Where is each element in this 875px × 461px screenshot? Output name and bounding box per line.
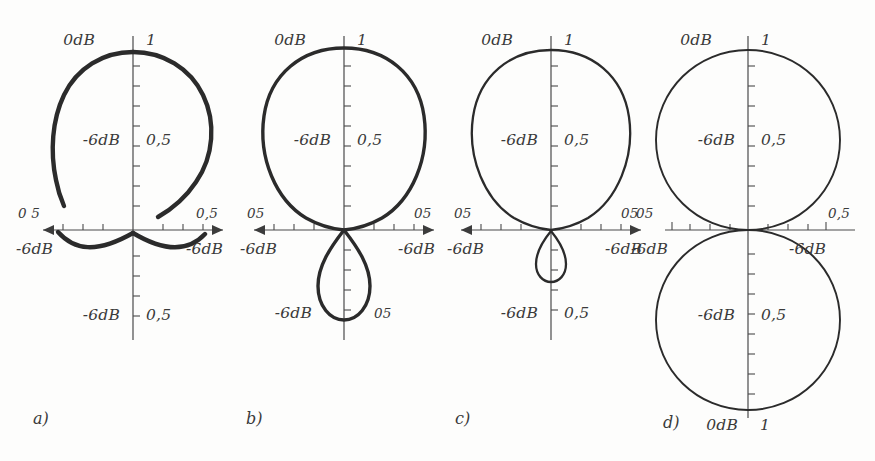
panel-d-label-axis-left-lower: -6dB [631,240,668,258]
panel-c-left-arrow-icon [461,225,472,235]
panel-c-label-axis-left-upper: 05 [454,205,472,221]
panel-b-label-top-right: 1 [357,31,367,49]
panel-a-label-top-right: 1 [146,31,156,49]
panel-d-label-bottom-axis-left: 0dB [706,416,738,434]
panel-c-caption: c) [455,409,470,428]
panel-a: 0dB 1 -6dB 0,5 0 5 0,5 -6dB -6dB -6dB 0,… [16,31,223,428]
panel-c-label-mid-right: 0,5 [564,131,589,149]
panel-d-label-axis-right-upper: 0,5 [828,205,850,221]
panel-a-caption: a) [33,409,49,428]
panel-b-label-top-left: 0dB [274,31,306,49]
panel-a-left-arrow-icon [43,225,54,235]
panel-d-label-bottom-left: -6dB [698,306,735,324]
panel-a-label-axis-left-upper: 0 5 [18,205,40,221]
panel-d-label-bottom-right: 0,5 [761,306,786,324]
panel-a-label-top-left: 0dB [63,31,95,49]
panel-b-label-mid-left: -6dB [294,131,331,149]
panel-c-label-bottom-left: -6dB [501,304,538,322]
panel-d-label-mid-right: 0,5 [761,131,786,149]
panel-a-vertical-ticks [133,66,140,316]
panel-a-front-lobe-left [53,52,133,206]
panel-c-label-mid-left: -6dB [501,131,538,149]
panel-a-label-axis-right-upper: 0,5 [196,205,218,221]
panel-c-label-top-left: 0dB [481,31,513,49]
panel-d: 0dB 1 -6dB 0,5 05 0,5 -6dB -6dB -6dB 0,5… [631,31,855,434]
panel-b-label-mid-right: 0,5 [357,131,382,149]
panel-a-label-mid-right: 0,5 [146,131,171,149]
panel-d-label-top-right: 1 [761,31,771,49]
panel-b-label-bottom-right: 05 [374,305,392,321]
panel-c-label-axis-left-lower: -6dB [447,240,484,258]
panel-b-vertical-ticks [344,66,351,310]
panel-a-label-mid-left: -6dB [83,131,120,149]
panel-c: 0dB 1 -6dB 0,5 05 05 -6dB -6dB -6dB 0,5 … [447,31,642,428]
panel-d-caption: d) [663,413,679,432]
panel-b-label-axis-left-lower: -6dB [240,240,277,258]
panel-a-right-arrow-icon [212,225,223,235]
figure-container: 0dB 1 -6dB 0,5 0 5 0,5 -6dB -6dB -6dB 0,… [0,0,875,461]
panel-a-label-axis-right-lower: -6dB [186,240,223,258]
panel-d-horizontal-ticks [672,222,826,230]
panel-b-label-axis-left-upper: 05 [247,205,265,221]
panel-a-label-axis-left-lower: -6dB [16,240,53,258]
panel-b-label-bottom-left: -6dB [275,304,312,322]
panel-c-right-arrow-icon [630,225,641,235]
panel-b-label-axis-right-lower: -6dB [398,240,435,258]
panel-b: 0dB 1 -6dB 0,5 05 05 -6dB -6dB -6dB 05 b… [240,31,435,428]
panel-a-rear-lobe-left [58,232,133,247]
panel-c-label-bottom-right: 0,5 [564,304,589,322]
panel-d-label-mid-left: -6dB [698,131,735,149]
panel-b-right-arrow-icon [423,225,434,235]
panel-d-label-axis-left-upper: 05 [636,205,654,221]
panel-a-label-bottom-right: 0,5 [146,306,171,324]
panel-c-vertical-ticks [551,66,558,310]
panel-b-label-axis-right-upper: 05 [414,205,432,221]
panel-d-label-bottom-axis-right: 1 [760,416,770,434]
panel-c-label-top-right: 1 [564,31,574,49]
panel-b-left-arrow-icon [254,225,265,235]
panel-b-caption: b) [246,409,262,428]
panel-d-label-axis-right-lower: -6dB [789,240,826,258]
polar-pattern-figure: 0dB 1 -6dB 0,5 0 5 0,5 -6dB -6dB -6dB 0,… [0,0,875,461]
panel-a-front-lobe-right [133,52,211,217]
panel-a-label-bottom-left: -6dB [83,306,120,324]
panel-d-label-top-left: 0dB [680,31,712,49]
